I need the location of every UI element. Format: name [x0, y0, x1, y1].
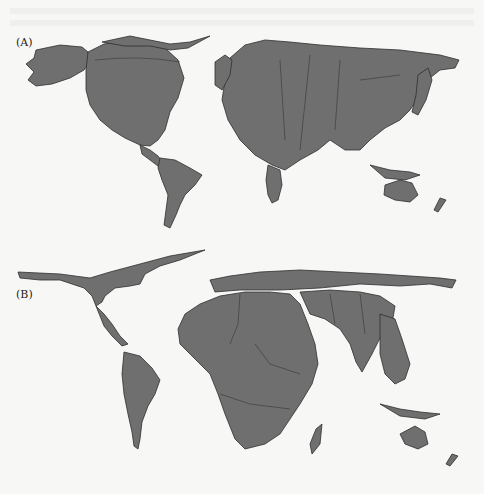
cartogram-b: [0, 244, 484, 494]
cartogram-a: [0, 0, 484, 230]
